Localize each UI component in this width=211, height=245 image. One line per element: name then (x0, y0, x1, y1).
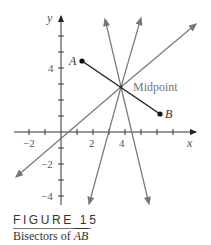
figure-label: FIGURE 15 (13, 213, 98, 227)
midpoint-dot (120, 86, 123, 89)
x-tick-2: 2 (89, 137, 95, 149)
bisector-line-3 (105, 19, 121, 87)
y-axis-label: y (46, 11, 53, 25)
y-tick-4: 4 (48, 62, 54, 74)
point-b-label: B (165, 107, 173, 121)
x-tick-neg2: −2 (23, 137, 35, 149)
x-tick-4: 4 (119, 137, 125, 149)
figure-caption: Bisectors of AB (13, 229, 88, 244)
point-b (157, 111, 162, 116)
caption-segment-ab: AB (74, 229, 89, 243)
point-a-label: A (68, 54, 77, 68)
midpoint-label: Midpoint (133, 80, 178, 94)
x-axis-label: x (186, 136, 193, 150)
bisector-line-2 (121, 18, 141, 87)
point-a (79, 58, 84, 63)
y-axis (58, 16, 64, 205)
x-axis (14, 129, 196, 135)
coordinate-plane: y x −2 2 4 4 −2 −4 A B Midpoint (0, 0, 211, 245)
y-tick-neg2: −2 (41, 158, 53, 170)
caption-prefix: Bisectors of (13, 229, 74, 243)
bisector-line-1 (121, 24, 196, 87)
y-tick-neg4: −4 (41, 190, 53, 202)
